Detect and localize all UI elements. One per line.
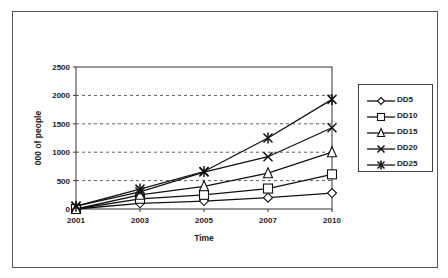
y-axis-ticks: 05001000150020002500: [52, 63, 76, 214]
y-tick-label: 2000: [52, 91, 70, 100]
y-tick-label: 500: [57, 177, 71, 186]
legend: DD5DD10DD15DD20DD25: [358, 84, 433, 172]
series-lines: [72, 94, 337, 214]
x-tick-label: 2001: [67, 216, 85, 225]
x-marker-icon: [361, 141, 397, 157]
legend-item-dd20: DD20: [359, 141, 434, 157]
square-marker-icon: [361, 109, 397, 125]
diamond-marker-icon: [361, 93, 397, 109]
x-tick-label: 2010: [323, 216, 341, 225]
x-axis-title: Time: [194, 233, 214, 243]
triangle-marker-icon: [361, 125, 397, 141]
legend-item-dd10: DD10: [359, 109, 434, 125]
legend-item-dd25: DD25: [359, 157, 434, 173]
legend-label: DD20: [397, 143, 417, 152]
x-tick-label: 2005: [195, 216, 213, 225]
asterisk-marker-icon: [361, 157, 397, 173]
y-tick-label: 2500: [52, 63, 70, 72]
legend-label: DD5: [397, 95, 413, 104]
y-tick-label: 1000: [52, 148, 70, 157]
legend-item-dd15: DD15: [359, 125, 434, 141]
legend-item-dd5: DD5: [359, 93, 434, 109]
y-tick-label: 1500: [52, 120, 70, 129]
y-axis-title: 000 of people: [33, 111, 43, 166]
x-axis-ticks: 20012003200520072010: [67, 209, 341, 225]
y-tick-label: 0: [66, 205, 71, 214]
legend-label: DD15: [397, 127, 417, 136]
x-tick-label: 2007: [259, 216, 277, 225]
legend-label: DD10: [397, 111, 417, 120]
legend-label: DD25: [397, 159, 417, 168]
x-tick-label: 2003: [131, 216, 149, 225]
